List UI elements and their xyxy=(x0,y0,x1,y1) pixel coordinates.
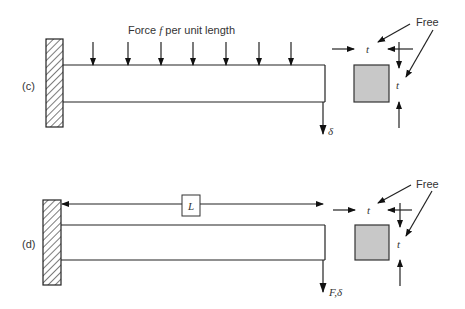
beam xyxy=(61,225,325,260)
panel-label-d: (d) xyxy=(22,238,35,250)
panel-label-c: (c) xyxy=(22,80,35,92)
free-label: Free xyxy=(416,178,439,190)
cross-section-square xyxy=(354,65,389,102)
cantilever-diagram: (c) Force f per unit length δ t xyxy=(0,0,465,309)
length-dimension: L xyxy=(62,195,323,216)
tip-deflection-label: δ xyxy=(328,125,334,137)
tip-force-label: F,δ xyxy=(328,286,343,298)
distributed-load-label: Force f per unit length xyxy=(128,24,235,36)
free-pointer-arrow-icon xyxy=(406,191,432,236)
thickness-label-top: t xyxy=(367,204,371,216)
cross-section-square xyxy=(355,225,389,260)
thickness-dimension-top: t xyxy=(332,43,413,55)
free-pointer-arrow-icon xyxy=(406,30,433,77)
free-pointer-arrow-icon xyxy=(378,24,410,42)
length-label: L xyxy=(187,200,194,212)
fixed-wall-support xyxy=(43,200,61,285)
panel-d: (d) L F,δ t t Free xyxy=(22,178,439,298)
distributed-load-arrows xyxy=(93,42,291,65)
thickness-label-side: t xyxy=(397,238,401,250)
thickness-dimension-side: t xyxy=(397,203,401,286)
thickness-dimension-side: t xyxy=(396,42,400,128)
panel-c: (c) Force f per unit length δ t xyxy=(22,16,439,137)
fixed-wall-support xyxy=(46,39,63,127)
beam xyxy=(63,65,325,102)
free-label: Free xyxy=(416,16,439,28)
thickness-label-side: t xyxy=(396,79,400,91)
free-pointer-arrow-icon xyxy=(378,185,411,203)
thickness-label-top: t xyxy=(366,43,370,55)
